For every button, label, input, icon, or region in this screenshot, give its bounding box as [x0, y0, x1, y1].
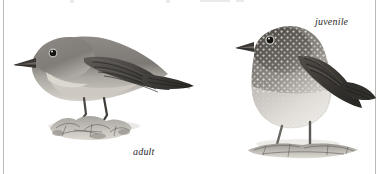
adult-bird-illustration [6, 18, 196, 143]
text-bleed-artifact [236, 0, 244, 2]
text-bleed-artifact [200, 0, 230, 2]
illustration-plate: adult [0, 0, 392, 174]
juvenile-bird-illustration [232, 12, 377, 162]
caption-adult: adult [133, 146, 155, 157]
text-bleed-artifact [70, 0, 74, 3]
text-bleed-artifact [166, 0, 170, 3]
caption-juvenile: juvenile [315, 16, 348, 27]
column-rule-left [3, 0, 4, 174]
